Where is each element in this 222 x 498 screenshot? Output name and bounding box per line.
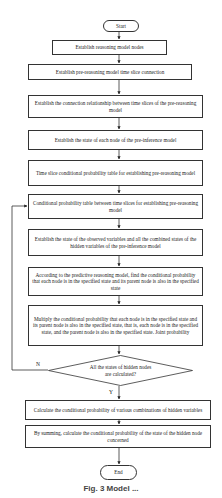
step-observed-hidden-states: Establish the state of the observed vari… xyxy=(28,229,203,256)
end-node: End xyxy=(100,465,137,480)
step-time-slice-cpt: Time slice conditional probability table… xyxy=(28,160,203,186)
decision-label: All the states of hidden nodes are calcu… xyxy=(88,364,153,377)
end-label: End xyxy=(114,469,122,476)
start-node: Start xyxy=(103,20,139,32)
step-time-slice-connection: Establish pre-reasoning model time slice… xyxy=(28,64,192,80)
decision-no-label: N xyxy=(36,361,40,367)
step-node-states: Establish the state of each node of the … xyxy=(28,130,203,150)
step-between-slices-cpt: Conditional probability table between ti… xyxy=(28,194,203,219)
decision-node: All the states of hidden nodes are calcu… xyxy=(48,355,193,386)
step-find-conditional-probability: According to the predictive reasoning mo… xyxy=(28,267,203,296)
step-establish-nodes: Establish reasoning model nodes xyxy=(52,40,167,55)
figure-caption: Fig. 3 Model ... xyxy=(0,484,222,493)
step-joint-probability: Multiply the conditional probability tha… xyxy=(28,305,203,346)
step-hidden-combinations: Calculate the conditional probability of… xyxy=(25,400,211,420)
step-summing: By summing, calculate the conditional pr… xyxy=(25,425,211,448)
start-label: Start xyxy=(116,23,126,30)
step-connection-relationship: Establish the connection relationship be… xyxy=(28,95,203,118)
decision-yes-label: Y xyxy=(109,389,113,395)
